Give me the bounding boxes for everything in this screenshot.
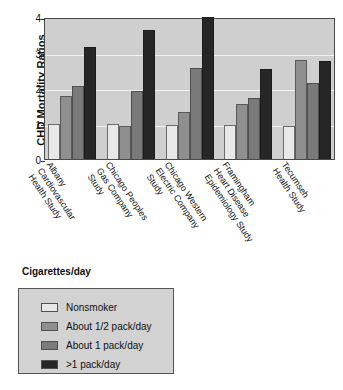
legend-swatch [41,322,58,331]
legend-swatch [41,303,58,312]
bar [295,60,307,159]
bar [236,104,248,159]
legend-item-label: Nonsmoker [66,302,117,313]
bar [307,83,319,159]
bar [48,124,60,160]
legend-item: About 1 pack/day [41,336,173,355]
legend-swatch [41,341,58,350]
chd-mortality-bar-chart: CHD Mortality Ratios 01234 AlbanyCardiov… [0,0,343,390]
legend-rows: NonsmokerAbout 1/2 pack/dayAbout 1 pack/… [41,298,173,374]
bar-group [283,19,331,159]
x-axis-tick-label: Chicago WesternElectric CompanyStudy [144,160,211,237]
legend-item-label: About 1 pack/day [66,340,143,351]
bar [84,47,96,159]
bar [224,125,236,159]
bar [60,96,72,159]
x-axis-tick-label: TecumsehHealth Study [270,160,317,215]
bar-group [48,19,96,159]
x-axis-tick-labels: AlbanyCardiovascularHealth StudyChicago … [44,160,335,265]
legend: NonsmokerAbout 1/2 pack/dayAbout 1 pack/… [18,288,174,374]
bar [131,91,143,159]
x-axis-tick-label: FraminghamHeart DiseaseEpidemiology Stud… [202,160,274,244]
bar [248,98,260,159]
bar-group [166,19,214,159]
bar [72,86,84,159]
bar [202,17,214,159]
bar [107,124,119,160]
bar [143,30,155,159]
bar-groups [45,19,334,159]
x-axis-tick-label: AlbanyCardiovascularHealth Study [26,160,87,228]
bar [319,61,331,159]
legend-swatch [41,360,58,369]
bar-group [107,19,155,159]
legend-item: Nonsmoker [41,298,173,317]
bar [260,69,272,159]
legend-item-label: >1 pack/day [66,359,120,370]
legend-item-label: About 1/2 pack/day [66,321,152,332]
legend-title: Cigarettes/day [22,266,91,277]
bar-group [224,19,272,159]
bar [178,112,190,159]
legend-item: >1 pack/day [41,355,173,374]
legend-item: About 1/2 pack/day [41,317,173,336]
bar [119,126,131,159]
bar [166,125,178,159]
bar [283,126,295,159]
bar [190,68,202,159]
plot-area: 01234 [44,18,335,160]
x-axis-tick-label: Chicago PeoplesGas CompanyStudy [85,160,150,235]
